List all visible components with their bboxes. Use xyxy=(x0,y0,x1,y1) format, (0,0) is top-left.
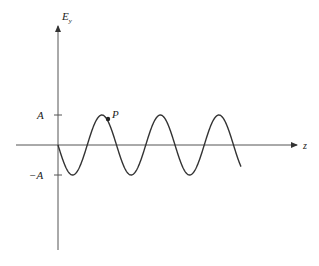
point-p-marker xyxy=(106,117,110,121)
y-axis-label: Ey xyxy=(61,10,73,25)
wave-diagram: Ey z A −A P xyxy=(0,0,319,266)
amplitude-label-negative: −A xyxy=(29,169,43,181)
point-p-label: P xyxy=(111,108,119,120)
x-axis-label: z xyxy=(302,140,307,151)
amplitude-label-positive: A xyxy=(36,109,44,121)
